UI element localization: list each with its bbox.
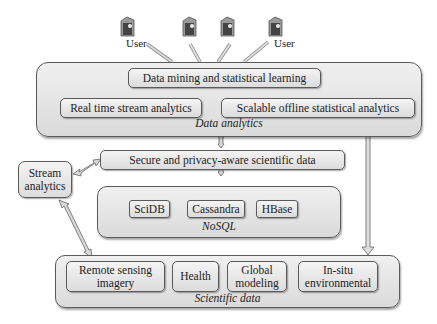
user-label-left: User (126, 37, 147, 49)
nosql-item-cassandra: Cassandra (187, 200, 245, 218)
computer-user-icon (218, 16, 236, 38)
hbase-label: HBase (262, 203, 293, 216)
user-arrow-2 (190, 44, 200, 62)
nosql-item-scidb: SciDB (129, 200, 170, 218)
scientific-item-health: Health (172, 261, 219, 292)
health-label: Health (180, 270, 211, 283)
scalable-offline-label: Scalable offline statistical analytics (237, 102, 399, 115)
stream-analytics-line1: Stream (29, 167, 62, 180)
data-mining-box: Data mining and statistical learning (128, 68, 321, 88)
remote-sensing-line1: Remote sensing (79, 264, 152, 277)
scalable-offline-box: Scalable offline statistical analytics (221, 98, 415, 118)
computer-user-icon (118, 16, 136, 38)
stream-analytics-box: Stream analytics (18, 161, 72, 198)
cassandra-label: Cassandra (192, 203, 239, 216)
computer-user-icon (266, 16, 284, 38)
user-icon-1 (118, 16, 136, 38)
remote-sensing-line2: imagery (97, 277, 135, 290)
user-arrow-4 (244, 42, 268, 62)
user-icon-3 (218, 16, 236, 38)
arrow-stream-scientific (59, 200, 92, 258)
arrow-analytics-scientific (362, 128, 374, 255)
in-situ-line2: environmental (305, 277, 371, 290)
nosql-caption: NoSQL (97, 220, 341, 232)
user-icon-4 (266, 16, 284, 38)
in-situ-line1: In-situ (323, 264, 353, 277)
scientific-data-caption: Scientific data (55, 292, 400, 304)
real-time-stream-box: Real time stream analytics (60, 98, 202, 118)
user-label-right: User (274, 37, 295, 49)
global-modeling-line2: modeling (235, 277, 278, 290)
data-mining-label: Data mining and statistical learning (143, 72, 307, 85)
arrow-stream-secure (73, 159, 101, 176)
computer-user-icon (180, 16, 198, 38)
data-analytics-caption: Data analytics (36, 117, 422, 129)
scientific-item-global-modeling: Global modeling (227, 261, 287, 292)
user-icon-2 (180, 16, 198, 38)
stream-analytics-line2: analytics (25, 180, 66, 193)
user-arrow-3 (218, 44, 230, 62)
scientific-item-in-situ: In-situ environmental (298, 261, 378, 292)
secure-data-box: Secure and privacy-aware scientific data (100, 150, 345, 170)
global-modeling-line1: Global (241, 264, 272, 277)
user-arrow-1 (147, 44, 172, 62)
scientific-item-remote-sensing: Remote sensing imagery (66, 261, 165, 292)
nosql-item-hbase: HBase (256, 200, 298, 218)
scidb-label: SciDB (134, 203, 165, 216)
secure-data-label: Secure and privacy-aware scientific data (129, 154, 315, 167)
real-time-stream-label: Real time stream analytics (70, 102, 192, 115)
